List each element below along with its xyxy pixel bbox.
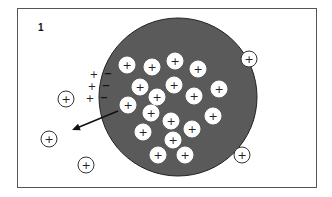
- cation-outside-plus-icon: +: [61, 93, 70, 106]
- cation-inside-plus-icon: +: [193, 63, 202, 76]
- cation-inside-plus-icon: +: [122, 59, 131, 72]
- positive-charge-icon: +: [86, 93, 94, 104]
- positive-charge-icon: +: [88, 81, 96, 92]
- cation-outside-plus-icon: +: [244, 53, 253, 66]
- negative-charge-icon: −: [104, 68, 112, 79]
- cation-inside-plus-icon: +: [135, 81, 144, 94]
- cation-outside-plus-icon: +: [81, 159, 90, 172]
- cation-inside-plus-icon: +: [189, 90, 198, 103]
- negative-charge-icon: −: [102, 80, 110, 91]
- cation-outside-plus-icon: +: [237, 149, 246, 162]
- cation-inside-plus-icon: +: [166, 115, 175, 128]
- positive-charge-icon: +: [90, 69, 98, 80]
- cation-inside-plus-icon: +: [147, 61, 156, 74]
- cation-outside-plus-icon: +: [44, 133, 53, 146]
- cation-inside-plus-icon: +: [170, 55, 179, 68]
- cation-inside-plus-icon: +: [180, 149, 189, 162]
- cation-inside-plus-icon: +: [168, 134, 177, 147]
- cation-inside-plus-icon: +: [187, 123, 196, 136]
- negative-charge-icon: −: [100, 92, 108, 103]
- cation-inside-plus-icon: +: [153, 149, 162, 162]
- cation-inside-plus-icon: +: [146, 107, 155, 120]
- cation-inside-plus-icon: +: [152, 91, 161, 104]
- cation-inside-plus-icon: +: [214, 83, 223, 96]
- cation-inside-plus-icon: +: [208, 110, 217, 123]
- cation-inside-plus-icon: +: [169, 79, 178, 92]
- cation-inside-plus-icon: +: [123, 99, 132, 112]
- cation-inside-plus-icon: +: [138, 126, 147, 139]
- ion-diagram: ++++++++++++++++++++++++++−−−: [0, 0, 332, 197]
